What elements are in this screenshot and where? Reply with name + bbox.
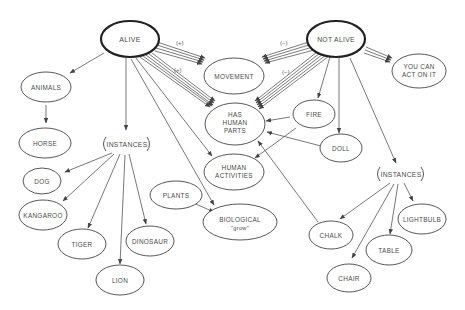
bundle-notalive-movement: [262, 41, 314, 63]
edge-instances-tiger: [88, 154, 120, 228]
edge-doll-parts: [267, 132, 321, 146]
label-youcan-line1: YOU CAN: [403, 63, 434, 70]
label-kangaroo: KANGAROO: [23, 212, 62, 219]
label-parts-line1: HAS: [228, 111, 242, 118]
edge-label-alive-parts: (+): [174, 67, 182, 73]
label-table: TABLE: [378, 247, 399, 254]
label-instances-right: INSTANCES: [380, 171, 421, 178]
edge-instances-table: [390, 184, 398, 234]
label-not-alive: NOT ALIVE: [317, 36, 355, 43]
label-instances-left: INSTANCES: [106, 141, 147, 148]
label-biological-line1: BIOLOGICAL: [219, 216, 261, 223]
label-lightbulb: LIGHTBULB: [403, 216, 441, 223]
edge-alive-animals: [70, 53, 104, 73]
label-biological-line2: "grow": [231, 225, 249, 231]
edge-instances-dinosaur: [129, 154, 146, 224]
label-activities-line2: ACTIVITIES: [215, 172, 253, 179]
edge-instances-kangaroo: [63, 154, 114, 201]
label-tiger: TIGER: [71, 241, 92, 248]
label-dinosaur: DINOSAUR: [132, 238, 168, 245]
edge-label-alive-movement: (+): [176, 40, 184, 46]
edge-instances-lion: [120, 155, 125, 264]
bundle-notalive-youcanact: [364, 47, 392, 62]
label-animals: ANIMALS: [31, 84, 61, 91]
label-dog: DOG: [34, 178, 49, 185]
label-chalk: CHALK: [320, 232, 343, 239]
label-horse: HORSE: [33, 140, 57, 147]
concept-map: (+) (+) (−) (−) ALIVE NOT ALIVE: [0, 0, 465, 310]
edge-fire-parts: [266, 117, 290, 121]
label-fire: FIRE: [306, 111, 322, 118]
label-parts-line2: HUMAN: [223, 119, 248, 126]
label-activities-line1: HUMAN: [222, 164, 247, 171]
label-youcan-line2: ACT ON IT: [402, 71, 436, 78]
edge-instances-lightbulb: [404, 183, 413, 201]
label-plants: PLANTS: [163, 192, 190, 199]
edge-label-notalive-movement: (−): [280, 40, 288, 46]
label-alive: ALIVE: [119, 36, 140, 43]
edge-label-notalive-parts: (−): [282, 69, 290, 75]
label-parts-line3: PARTS: [224, 127, 246, 134]
label-doll: DOLL: [332, 145, 350, 152]
label-chair: CHAIR: [338, 275, 359, 282]
bundle-alive-parts: [140, 53, 215, 107]
label-lion: LION: [112, 277, 128, 284]
edge-instances-chalk: [340, 183, 390, 219]
label-movement: MOVEMENT: [214, 73, 253, 80]
